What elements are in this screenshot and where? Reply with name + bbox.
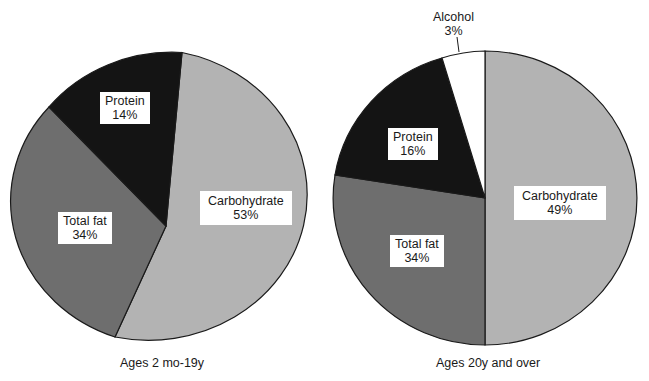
alcohol-leader-line	[457, 37, 459, 52]
left-label-total-fat: Total fat 34%	[58, 212, 112, 244]
label-value: 49%	[522, 203, 598, 217]
right-label-total-fat: Total fat 34%	[390, 235, 444, 267]
label-name: Carbohydrate	[208, 194, 284, 208]
right-label-alcohol: Alcohol 3%	[433, 10, 474, 38]
label-value: 34%	[395, 251, 439, 265]
label-value: 53%	[208, 208, 284, 222]
label-value: 16%	[393, 144, 433, 158]
label-name: Total fat	[395, 237, 439, 251]
label-value: 14%	[105, 108, 145, 122]
label-value: 3%	[433, 24, 474, 38]
label-name: Total fat	[63, 214, 107, 228]
label-value: 34%	[63, 228, 107, 242]
left-label-protein: Protein 14%	[100, 92, 150, 124]
right-caption: Ages 20y and over	[436, 356, 540, 370]
label-name: Alcohol	[433, 10, 474, 24]
label-name: Protein	[393, 130, 433, 144]
right-label-protein: Protein 16%	[388, 128, 438, 160]
label-name: Protein	[105, 94, 145, 108]
label-name: Carbohydrate	[522, 189, 598, 203]
left-caption: Ages 2 mo-19y	[120, 356, 204, 370]
right-label-carbohydrate: Carbohydrate 49%	[514, 186, 606, 220]
left-label-carbohydrate: Carbohydrate 53%	[200, 191, 292, 225]
